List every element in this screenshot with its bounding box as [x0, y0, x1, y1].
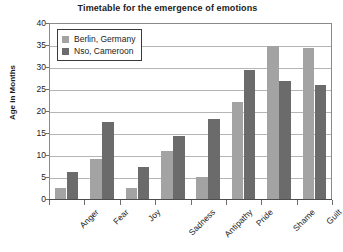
bar-guilt-series-0[interactable] [303, 48, 315, 199]
y-tick-label-20: 20 [6, 106, 46, 116]
bar-anger-series-1[interactable] [67, 172, 79, 199]
legend-item-series-0[interactable]: Berlin, Germany [62, 33, 135, 45]
bar-group-pride [226, 23, 261, 199]
bar-sadness-series-0[interactable] [161, 151, 173, 199]
x-tick-mark-0 [49, 200, 50, 205]
bar-pride-series-1[interactable] [244, 70, 256, 199]
y-tick-label-40: 40 [6, 18, 46, 28]
bar-sadness-series-1[interactable] [173, 136, 185, 199]
legend-swatch-icon-series-1 [62, 48, 69, 55]
bar-guilt-series-1[interactable] [315, 85, 327, 199]
bar-antipathy-series-1[interactable] [208, 119, 220, 199]
chart-title: Timetable for the emergence of emotions [0, 3, 335, 13]
x-tick-mark-1 [84, 200, 85, 205]
bar-fear-series-1[interactable] [102, 122, 114, 199]
x-tick-mark-6 [261, 200, 262, 205]
legend-swatch-icon-series-0 [62, 36, 69, 43]
x-tick-label-antipathy: Antipathy [223, 207, 255, 239]
x-tick-mark-3 [155, 200, 156, 205]
x-tick-label-sadness: Sadness [187, 207, 217, 237]
y-tick-label-25: 25 [6, 84, 46, 94]
x-tick-label-guilt: Guilt [324, 207, 343, 226]
x-tick-label-anger: Anger [78, 207, 101, 230]
bar-shame-series-0[interactable] [267, 46, 279, 199]
bar-group-antipathy [191, 23, 226, 199]
y-tick-label-30: 30 [6, 62, 46, 72]
y-tick-label-35: 35 [6, 40, 46, 50]
x-tick-label-pride: Pride [254, 207, 275, 228]
x-tick-mark-5 [226, 200, 227, 205]
bar-joy-series-1[interactable] [138, 167, 150, 199]
bar-fear-series-0[interactable] [90, 159, 102, 199]
bar-shame-series-1[interactable] [279, 81, 291, 199]
bar-antipathy-series-0[interactable] [196, 177, 208, 199]
bar-group-guilt [297, 23, 332, 199]
bar-joy-series-0[interactable] [126, 188, 138, 199]
bar-pride-series-0[interactable] [232, 102, 244, 199]
x-tick-mark-7 [297, 200, 298, 205]
legend-label-series-1: Nso, Cameroon [74, 46, 134, 56]
legend-label-series-0: Berlin, Germany [74, 34, 135, 44]
y-tick-label-0: 0 [6, 194, 46, 204]
x-tick-mark-4 [191, 200, 192, 205]
bar-anger-series-0[interactable] [55, 188, 67, 199]
legend-item-series-1[interactable]: Nso, Cameroon [62, 45, 135, 57]
x-tick-mark-end [332, 200, 333, 205]
x-tick-mark-2 [120, 200, 121, 205]
y-tick-label-5: 5 [6, 172, 46, 182]
legend: Berlin, Germany Nso, Cameroon [57, 29, 142, 61]
y-tick-label-10: 10 [6, 150, 46, 160]
x-tick-label-fear: Fear [111, 207, 130, 226]
y-tick-label-15: 15 [6, 128, 46, 138]
x-tick-label-shame: Shame [291, 207, 317, 233]
bar-group-shame [261, 23, 296, 199]
bar-group-sadness [155, 23, 190, 199]
x-tick-label-joy: Joy [146, 207, 162, 223]
